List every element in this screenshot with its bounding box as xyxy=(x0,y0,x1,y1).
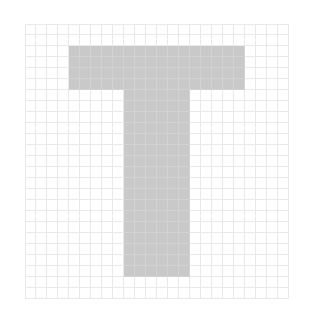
grid-cell-empty[interactable] xyxy=(256,112,267,123)
grid-cell-empty[interactable] xyxy=(267,24,278,35)
grid-cell-empty[interactable] xyxy=(179,35,190,46)
grid-cell-empty[interactable] xyxy=(245,46,256,57)
grid-cell-empty[interactable] xyxy=(135,288,146,299)
grid-cell-empty[interactable] xyxy=(58,35,69,46)
grid-cell-empty[interactable] xyxy=(245,35,256,46)
grid-cell-empty[interactable] xyxy=(278,90,289,101)
grid-cell-empty[interactable] xyxy=(223,233,234,244)
grid-cell-empty[interactable] xyxy=(223,244,234,255)
grid-cell-filled[interactable] xyxy=(135,90,146,101)
grid-cell-empty[interactable] xyxy=(278,167,289,178)
grid-cell-empty[interactable] xyxy=(256,57,267,68)
grid-cell-empty[interactable] xyxy=(223,277,234,288)
grid-cell-empty[interactable] xyxy=(58,123,69,134)
grid-cell-empty[interactable] xyxy=(245,123,256,134)
grid-cell-filled[interactable] xyxy=(179,79,190,90)
grid-cell-empty[interactable] xyxy=(36,200,47,211)
grid-cell-empty[interactable] xyxy=(47,167,58,178)
grid-cell-empty[interactable] xyxy=(36,266,47,277)
grid-cell-filled[interactable] xyxy=(146,112,157,123)
grid-cell-empty[interactable] xyxy=(245,112,256,123)
grid-cell-empty[interactable] xyxy=(135,277,146,288)
grid-cell-empty[interactable] xyxy=(190,24,201,35)
grid-cell-filled[interactable] xyxy=(146,178,157,189)
grid-cell-empty[interactable] xyxy=(91,222,102,233)
grid-cell-empty[interactable] xyxy=(47,68,58,79)
grid-cell-empty[interactable] xyxy=(102,167,113,178)
grid-cell-filled[interactable] xyxy=(179,145,190,156)
grid-cell-empty[interactable] xyxy=(245,288,256,299)
grid-cell-filled[interactable] xyxy=(135,178,146,189)
grid-cell-empty[interactable] xyxy=(47,79,58,90)
grid-cell-empty[interactable] xyxy=(267,35,278,46)
grid-cell-empty[interactable] xyxy=(102,123,113,134)
grid-cell-filled[interactable] xyxy=(179,233,190,244)
grid-cell-empty[interactable] xyxy=(102,255,113,266)
grid-cell-empty[interactable] xyxy=(47,255,58,266)
grid-cell-empty[interactable] xyxy=(102,178,113,189)
grid-cell-empty[interactable] xyxy=(267,244,278,255)
grid-cell-empty[interactable] xyxy=(47,112,58,123)
grid-cell-empty[interactable] xyxy=(80,189,91,200)
grid-cell-empty[interactable] xyxy=(25,101,36,112)
grid-cell-empty[interactable] xyxy=(245,178,256,189)
grid-cell-empty[interactable] xyxy=(190,222,201,233)
grid-cell-empty[interactable] xyxy=(58,244,69,255)
grid-cell-empty[interactable] xyxy=(25,222,36,233)
grid-cell-empty[interactable] xyxy=(91,178,102,189)
grid-cell-empty[interactable] xyxy=(201,123,212,134)
grid-cell-empty[interactable] xyxy=(245,233,256,244)
grid-cell-filled[interactable] xyxy=(157,211,168,222)
grid-cell-empty[interactable] xyxy=(234,266,245,277)
grid-cell-empty[interactable] xyxy=(113,123,124,134)
grid-cell-filled[interactable] xyxy=(179,123,190,134)
grid-cell-empty[interactable] xyxy=(80,167,91,178)
grid-cell-empty[interactable] xyxy=(113,24,124,35)
grid-cell-empty[interactable] xyxy=(91,233,102,244)
grid-cell-empty[interactable] xyxy=(113,35,124,46)
grid-cell-empty[interactable] xyxy=(102,145,113,156)
grid-cell-empty[interactable] xyxy=(80,123,91,134)
grid-cell-empty[interactable] xyxy=(256,35,267,46)
grid-cell-empty[interactable] xyxy=(190,123,201,134)
grid-cell-empty[interactable] xyxy=(190,288,201,299)
grid-cell-empty[interactable] xyxy=(278,211,289,222)
grid-cell-empty[interactable] xyxy=(47,222,58,233)
grid-cell-empty[interactable] xyxy=(91,277,102,288)
grid-cell-filled[interactable] xyxy=(124,101,135,112)
grid-cell-empty[interactable] xyxy=(58,112,69,123)
grid-cell-filled[interactable] xyxy=(234,57,245,68)
grid-cell-filled[interactable] xyxy=(124,255,135,266)
grid-cell-empty[interactable] xyxy=(58,156,69,167)
grid-cell-empty[interactable] xyxy=(91,24,102,35)
grid-cell-empty[interactable] xyxy=(124,35,135,46)
grid-cell-empty[interactable] xyxy=(25,35,36,46)
grid-cell-empty[interactable] xyxy=(25,266,36,277)
grid-cell-empty[interactable] xyxy=(25,178,36,189)
grid-cell-filled[interactable] xyxy=(168,112,179,123)
grid-cell-empty[interactable] xyxy=(124,277,135,288)
grid-cell-empty[interactable] xyxy=(267,222,278,233)
grid-cell-empty[interactable] xyxy=(25,277,36,288)
grid-cell-empty[interactable] xyxy=(234,24,245,35)
grid-cell-empty[interactable] xyxy=(102,156,113,167)
grid-cell-filled[interactable] xyxy=(234,79,245,90)
grid-cell-empty[interactable] xyxy=(223,178,234,189)
grid-cell-empty[interactable] xyxy=(102,35,113,46)
grid-cell-filled[interactable] xyxy=(146,79,157,90)
grid-cell-empty[interactable] xyxy=(102,134,113,145)
grid-cell-empty[interactable] xyxy=(58,57,69,68)
grid-cell-empty[interactable] xyxy=(212,288,223,299)
grid-cell-filled[interactable] xyxy=(201,57,212,68)
grid-cell-empty[interactable] xyxy=(36,134,47,145)
grid-cell-empty[interactable] xyxy=(80,178,91,189)
grid-cell-empty[interactable] xyxy=(58,200,69,211)
grid-cell-empty[interactable] xyxy=(80,211,91,222)
grid-cell-filled[interactable] xyxy=(146,68,157,79)
grid-cell-empty[interactable] xyxy=(58,189,69,200)
grid-cell-empty[interactable] xyxy=(245,189,256,200)
grid-cell-filled[interactable] xyxy=(179,266,190,277)
grid-cell-empty[interactable] xyxy=(234,156,245,167)
grid-cell-empty[interactable] xyxy=(91,35,102,46)
grid-cell-empty[interactable] xyxy=(113,156,124,167)
